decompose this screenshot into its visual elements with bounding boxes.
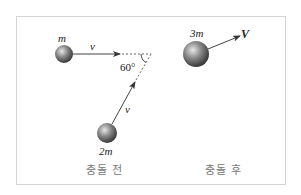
label-3m: 3m (189, 27, 204, 39)
dashed-extension-diagonal (136, 54, 151, 80)
angle-label: 60° (120, 61, 135, 73)
velocity-arrow-2m (112, 82, 135, 124)
ball-2m (97, 123, 117, 143)
angle-arc (141, 54, 146, 63)
ball-3m (183, 41, 209, 67)
caption-after-collision: 충돌 후 (205, 161, 243, 177)
velocity-arrow-3m (208, 36, 240, 49)
collision-diagram: m v 60° 2m v 3m V (0, 0, 301, 195)
velocity-label-2m: v (125, 103, 130, 115)
velocity-label-m: v (90, 40, 95, 52)
caption-before-collision: 충돌 전 (86, 161, 124, 177)
label-2m: 2m (99, 145, 113, 157)
label-m: m (58, 32, 66, 44)
ball-m (55, 45, 73, 63)
velocity-label-3m: V (241, 27, 250, 41)
